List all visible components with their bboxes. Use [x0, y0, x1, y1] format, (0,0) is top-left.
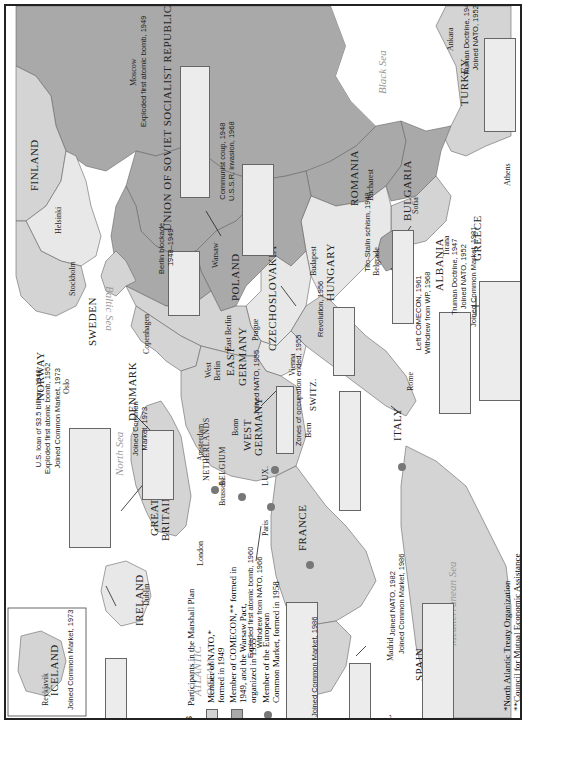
- legend-nato-line2: formed in 1949: [216, 648, 226, 704]
- legend-dollar-icon: $: [184, 716, 194, 720]
- ecm-dot-netherlands: [211, 486, 219, 494]
- note-czech: Communist coup, 1948U.S.S.R. invasion, 1…: [242, 164, 274, 256]
- sea-north: North Sea: [113, 432, 125, 476]
- country-sweden: SWEDEN: [86, 297, 98, 346]
- city-west-berlin-line1: West: [204, 362, 213, 378]
- city-prague: Prague: [251, 319, 260, 341]
- city-east-berlin: East Berlin: [224, 315, 233, 351]
- country-finland: FINLAND: [28, 139, 40, 191]
- country-france: FRANCE: [296, 505, 308, 551]
- note-austria: Zones of occupation ended, 1955: [339, 391, 361, 511]
- city-moscow: Moscow: [129, 58, 138, 86]
- country-poland: POLAND: [229, 253, 241, 301]
- note-ireland: Joined Common Market, 1973: [105, 658, 127, 720]
- ecm-dot-lux: [267, 503, 275, 511]
- note-denmark: Joined CommonMarket, 1973: [142, 430, 174, 500]
- city-copenhagen: Copenhagen: [142, 314, 151, 354]
- city-oslo: Oslo: [62, 379, 71, 394]
- city-rome: Rome: [406, 372, 415, 391]
- note-berlin: Berlin blockade,1948–1949: [168, 251, 200, 316]
- legend-comecon-line2: 1949, and the Warsaw Pact,: [238, 603, 248, 703]
- city-bern: Bern: [304, 422, 313, 438]
- note-ussr: Exploded first atomic bomb, 1949: [180, 66, 210, 198]
- country-portugal: PORTUGAL: [381, 714, 393, 720]
- legend-comecon-line1: Member of COMECON,** formed in: [228, 567, 238, 703]
- note-greece: Truman Doctrine, 1947Joined NATO, 1952Jo…: [479, 281, 521, 401]
- ecm-dot-belgium: [238, 493, 246, 501]
- country-egermany-line2: GERMANY: [236, 327, 248, 386]
- country-hungary: HUNGARY: [324, 243, 336, 301]
- city-ankara: Ankara: [446, 27, 455, 51]
- city-bonn: Bonn: [231, 419, 240, 436]
- city-belgrade: Belgrade: [372, 247, 381, 276]
- legend-nato-line1: Member of NATO,*: [206, 630, 216, 703]
- note-portugal: Joined Common Market, 1986: [349, 663, 371, 720]
- note-hungary: Revolution, 1956: [333, 307, 355, 376]
- note-spain: Joined NATO, 1982Joined Common Market, 1…: [422, 603, 454, 720]
- city-stockholm: Stockholm: [68, 261, 77, 296]
- city-amsterdam: Amsterdam: [196, 424, 205, 461]
- ecm-dot-france: [306, 561, 314, 569]
- legend-ecm-dot: [264, 711, 272, 719]
- city-budapest: Budapest: [309, 246, 318, 276]
- country-ussr: UNION OF SOVIET SOCIALIST REPUBLICS: [161, 4, 173, 231]
- footnote-nato: *North Atlantic Treaty Organization: [502, 580, 512, 711]
- legend-ecm-line2: Common Market, formed in 1958: [271, 581, 281, 703]
- city-warsaw: Warsaw: [211, 242, 220, 268]
- country-switz: SWITZ.: [308, 378, 318, 411]
- country-czech: CZECHOSLOVAKIA: [266, 245, 278, 351]
- note-turkey: Truman Doctrine, 1947Joined NATO, 1952: [484, 38, 516, 132]
- city-dublin: Dublin: [142, 584, 151, 606]
- city-london: London: [196, 541, 205, 566]
- sea-baltic: Baltic Sea: [104, 286, 116, 331]
- sea-black: Black Sea: [376, 50, 388, 94]
- country-italy: ITALY: [391, 407, 403, 441]
- country-lux: LUX.: [261, 466, 270, 486]
- legend-ecm-line1: Member of the European: [261, 613, 271, 703]
- note-wgermany: Joined NATO, 1955: [276, 386, 294, 454]
- legend-comecon-line3: organized in 1955: [248, 638, 258, 703]
- city-helsinki: Helsinki: [54, 207, 63, 234]
- ecm-dot-wgermany: [271, 466, 279, 474]
- ecm-dot-italy: [398, 463, 406, 471]
- city-brussels: Brussels: [218, 479, 227, 506]
- footnote-comecon: **Council for Mutual Economic Assistance: [512, 554, 522, 711]
- city-west-berlin-line2: Berlin: [213, 361, 222, 381]
- legend-marshall: Participants in the Marshall Plan: [186, 589, 196, 706]
- note-gb: U.S. loan of $3.5 billion, 1946Exploded …: [69, 428, 111, 548]
- map-caption: Map 28.1 Divided Europe: [528, 0, 576, 783]
- legend-nato-swatch: [206, 709, 218, 720]
- map-frame: ATLANTIC OCEAN North Sea Baltic Sea Blac…: [4, 4, 522, 720]
- country-gb-line2: BRITAIN: [159, 494, 171, 541]
- legend-comecon-swatch: [231, 709, 243, 720]
- city-reykjavik: Reykjavik: [41, 673, 50, 706]
- note-yugoslavia: Tito-Stalin schism, 1948: [392, 230, 414, 324]
- country-romania: ROMANIA: [348, 150, 360, 206]
- city-sofia: Sofia: [411, 197, 420, 214]
- note-albania: Left COMECON, 1961Withdrew from WP, 1968: [439, 312, 471, 414]
- city-paris: Paris: [261, 520, 270, 536]
- city-athens: Athens: [503, 163, 512, 186]
